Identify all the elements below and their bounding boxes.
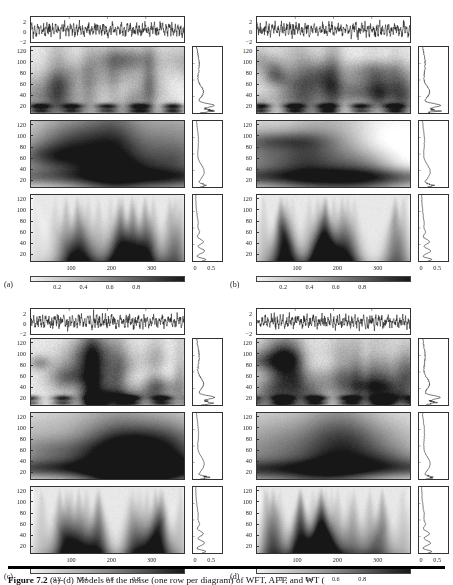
marginal-spectrum-wft: [418, 46, 449, 114]
signal-timeseries-axes: [256, 308, 411, 335]
heatmap-ytick-label: 40: [232, 166, 252, 172]
heatmap-ytick-label: 100: [6, 351, 26, 357]
heatmap-ytick-mark: [30, 243, 33, 244]
heatmap-ytick-label: 20: [6, 251, 26, 257]
heatmap-ytick-label: 60: [232, 229, 252, 235]
colorbar-tick-label: 0.6: [326, 283, 346, 290]
colorbar-tick-label: 0.4: [73, 283, 93, 290]
signal-ytick-label: 0: [6, 29, 26, 35]
heatmap-ytick-label: 80: [232, 362, 252, 368]
marginal-xtick-label: 0.5: [199, 557, 223, 563]
heatmap-ytick-mark: [30, 450, 33, 451]
panel-d: 20−2120100806040201201008060402012010080…: [226, 292, 452, 584]
signal-ytick-label: −2: [232, 39, 252, 45]
heatmap-ytick-label: 40: [232, 384, 252, 390]
heatmap-ytick-label: 20: [6, 543, 26, 549]
heatmap-ytick-mark: [30, 501, 33, 502]
heatmap-ytick-label: 100: [6, 207, 26, 213]
heatmap-ytick-label: 100: [6, 425, 26, 431]
heatmap-ytick-mark: [30, 398, 33, 399]
heatmap-ytick-label: 80: [6, 144, 26, 150]
heatmap-ytick-label: 100: [232, 133, 252, 139]
heatmap-ytick-label: 40: [232, 92, 252, 98]
heatmap-ytick-mark: [256, 95, 259, 96]
heatmap-ytick-mark: [30, 221, 33, 222]
heatmap-ytick-mark: [256, 232, 259, 233]
panel-letter: (a): [4, 280, 13, 289]
heatmap-ytick-mark: [256, 416, 259, 417]
heatmap-ytick-mark: [256, 124, 259, 125]
heatmap-ytick-label: 20: [232, 469, 252, 475]
heatmap-xtick-label: 200: [325, 557, 349, 563]
heatmap-xtick-label: 300: [366, 265, 390, 271]
heatmap-ytick-mark: [30, 50, 33, 51]
marginal-spectrum-aft: [192, 412, 223, 480]
heatmap-ytick-mark: [256, 365, 259, 366]
heatmap-ytick-mark: [256, 61, 259, 62]
signal-ytick-label: −2: [6, 331, 26, 337]
heatmap-ytick-mark: [256, 169, 259, 170]
heatmap-ytick-label: 100: [232, 351, 252, 357]
heatmap-wft: [256, 46, 411, 114]
signal-ytick-label: 0: [6, 321, 26, 327]
heatmap-ytick-label: 40: [6, 384, 26, 390]
heatmap-ytick-label: 120: [6, 196, 26, 202]
heatmap-ytick-label: 60: [6, 229, 26, 235]
heatmap-ytick-mark: [256, 243, 259, 244]
heatmap-ytick-mark: [256, 147, 259, 148]
heatmap-ytick-mark: [30, 61, 33, 62]
heatmap-ytick-label: 100: [232, 207, 252, 213]
heatmap-ytick-label: 40: [6, 240, 26, 246]
heatmap-xtick-label: 100: [285, 265, 309, 271]
heatmap-ytick-mark: [256, 342, 259, 343]
marginal-spectrum-wft: [192, 46, 223, 114]
heatmap-ytick-mark: [256, 221, 259, 222]
heatmap-ytick-label: 100: [6, 59, 26, 65]
heatmap-ytick-mark: [30, 147, 33, 148]
heatmap-ytick-label: 40: [232, 532, 252, 538]
heatmap-wft: [30, 338, 185, 406]
signal-timeseries-axes: [30, 16, 185, 43]
heatmap-ytick-label: 100: [232, 59, 252, 65]
heatmap-ytick-label: 80: [6, 510, 26, 516]
marginal-xtick-label: 0.5: [425, 557, 449, 563]
heatmap-aft: [30, 120, 185, 188]
heatmap-ytick-mark: [30, 376, 33, 377]
heatmap-ytick-label: 60: [6, 81, 26, 87]
heatmap-ytick-mark: [256, 398, 259, 399]
heatmap-xtick-label: 300: [140, 265, 164, 271]
heatmap-xtick-label: 300: [366, 557, 390, 563]
heatmap-ytick-mark: [30, 353, 33, 354]
signal-ytick-label: −2: [6, 39, 26, 45]
marginal-spectrum-wt: [418, 194, 449, 262]
heatmap-ytick-mark: [256, 73, 259, 74]
heatmap-wt: [30, 194, 185, 262]
heatmap-ytick-label: 120: [6, 122, 26, 128]
marginal-spectrum-wft: [192, 338, 223, 406]
heatmap-ytick-label: 120: [6, 488, 26, 494]
heatmap-ytick-label: 100: [6, 133, 26, 139]
signal-ytick-label: 2: [6, 19, 26, 25]
heatmap-ytick-mark: [30, 490, 33, 491]
marginal-spectrum-aft: [418, 120, 449, 188]
heatmap-xtick-label: 300: [140, 557, 164, 563]
marginal-xtick-label: 0.5: [199, 265, 223, 271]
heatmap-ytick-mark: [30, 73, 33, 74]
heatmap-ytick-mark: [30, 232, 33, 233]
heatmap-ytick-mark: [256, 535, 259, 536]
heatmap-ytick-label: 80: [6, 436, 26, 442]
heatmap-ytick-mark: [30, 365, 33, 366]
heatmap-ytick-label: 20: [232, 177, 252, 183]
colorbar-tick-label: 0.8: [126, 283, 146, 290]
heatmap-ytick-label: 20: [232, 395, 252, 401]
colorbar-tick-label: 0.6: [100, 283, 120, 290]
heatmap-wt: [256, 486, 411, 554]
signal-ytick-label: −2: [232, 331, 252, 337]
heatmap-ytick-mark: [256, 461, 259, 462]
heatmap-ytick-label: 120: [232, 122, 252, 128]
heatmap-ytick-mark: [256, 158, 259, 159]
heatmap-ytick-mark: [256, 376, 259, 377]
signal-ytick-label: 2: [232, 311, 252, 317]
marginal-spectrum-wt: [192, 486, 223, 554]
heatmap-ytick-mark: [256, 490, 259, 491]
